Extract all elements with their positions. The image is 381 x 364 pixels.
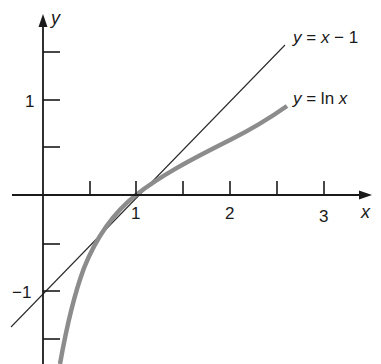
y-axis [39, 14, 61, 364]
x-tick-label-1: 1 [131, 204, 140, 223]
x-axis-arrow-icon [359, 191, 372, 200]
line-label: y = x − 1 [292, 28, 358, 47]
y-tick-label-minus-1: −1 [12, 283, 31, 302]
y-axis-label: y [49, 8, 61, 28]
curve-label: y = ln x [292, 89, 348, 108]
y-tick-label-1: 1 [25, 92, 34, 111]
chart: x y 1 2 3 1 −1 y = x − 1 y = ln x [0, 0, 381, 364]
y-axis-arrow-icon [39, 14, 48, 27]
ln-curve [60, 106, 287, 364]
x-axis-label: x [360, 202, 371, 222]
x-tick-label-3: 3 [319, 207, 328, 226]
x-axis [12, 181, 372, 200]
x-tick-label-2: 2 [225, 204, 234, 223]
